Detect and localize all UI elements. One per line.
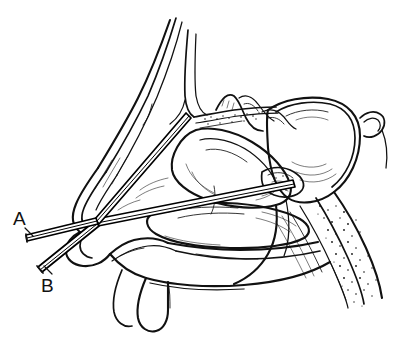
nasal-cavity-sagittal-diagram xyxy=(0,0,415,339)
figure-root: A B xyxy=(0,0,415,339)
label-a: A xyxy=(13,209,26,228)
clivus-cancellous-bone-group xyxy=(276,192,382,308)
sella-turcica-group xyxy=(360,112,387,168)
soft-palate-uvula-group xyxy=(113,270,170,331)
superior-turbinate-group xyxy=(216,95,296,131)
label-b: B xyxy=(41,276,54,295)
